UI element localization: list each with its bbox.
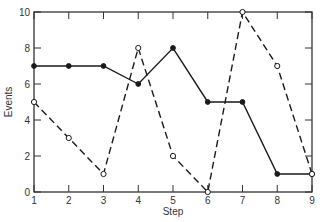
data-point-marker	[171, 46, 176, 51]
x-tick-label: 4	[135, 195, 141, 206]
data-point-marker	[66, 64, 71, 69]
data-point-marker	[101, 171, 106, 176]
x-tick-label: 1	[31, 195, 37, 206]
data-point-marker	[240, 9, 245, 14]
data-point-marker	[240, 100, 245, 105]
data-point-marker	[309, 171, 314, 176]
y-tick-label: 4	[24, 115, 30, 126]
y-axis-label: Events	[3, 87, 14, 118]
data-point-marker	[205, 100, 210, 105]
x-tick-label: 8	[274, 195, 280, 206]
y-tick-label: 8	[24, 43, 30, 54]
y-tick-label: 10	[19, 7, 31, 18]
axis-ticks: 1234567890246810	[19, 7, 315, 206]
data-point-marker	[66, 135, 71, 140]
data-point-marker	[136, 45, 141, 50]
data-point-marker	[275, 63, 280, 68]
data-point-marker	[32, 64, 37, 69]
series-line-2	[34, 12, 312, 192]
data-point-marker	[101, 64, 106, 69]
data-series	[31, 9, 314, 194]
x-tick-label: 2	[66, 195, 72, 206]
data-point-marker	[31, 99, 36, 104]
x-tick-label: 7	[240, 195, 246, 206]
y-tick-label: 2	[24, 151, 30, 162]
x-tick-label: 5	[170, 195, 176, 206]
y-tick-label: 6	[24, 79, 30, 90]
data-point-marker	[205, 189, 210, 194]
y-tick-label: 0	[24, 187, 30, 198]
x-tick-label: 9	[309, 195, 315, 206]
line-chart: 1234567890246810 Step Events	[0, 0, 323, 222]
data-point-marker	[136, 82, 141, 87]
x-tick-label: 3	[101, 195, 107, 206]
plot-border	[34, 12, 312, 192]
data-point-marker	[170, 153, 175, 158]
x-axis-label: Step	[163, 206, 184, 217]
plot-frame	[34, 12, 312, 192]
x-tick-label: 6	[205, 195, 211, 206]
data-point-marker	[275, 172, 280, 177]
